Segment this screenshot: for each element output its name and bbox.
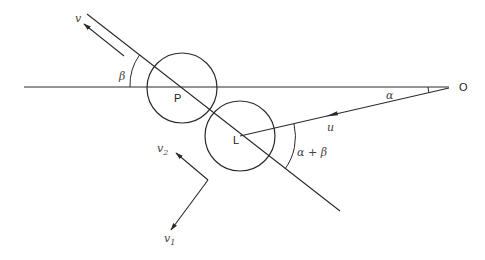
- label-beta: β: [118, 70, 125, 83]
- alpha-arc: [428, 87, 429, 93]
- collision-diagram: v β P L O α u α + β v2 v1: [0, 0, 485, 260]
- diagram-canvas: v β P L O α u α + β v2 v1: [0, 0, 485, 260]
- label-v: v: [75, 12, 82, 25]
- label-O: O: [459, 81, 468, 93]
- u-line: [240, 88, 449, 136]
- beta-arc: [130, 55, 140, 87]
- v1-arrow-icon: [171, 180, 208, 230]
- label-v1: v1: [164, 232, 175, 247]
- v-arrow-icon: [84, 24, 124, 56]
- u-arrowhead-icon: [326, 111, 338, 116]
- label-alpha: α: [386, 89, 394, 102]
- label-alpha-plus-beta: α + β: [297, 146, 327, 159]
- label-P: P: [174, 92, 181, 104]
- label-u: u: [327, 121, 334, 134]
- label-v2: v2: [157, 142, 168, 157]
- alpha-beta-arc: [285, 124, 295, 169]
- label-L: L: [233, 134, 239, 146]
- v2-arrow-icon: [176, 153, 208, 180]
